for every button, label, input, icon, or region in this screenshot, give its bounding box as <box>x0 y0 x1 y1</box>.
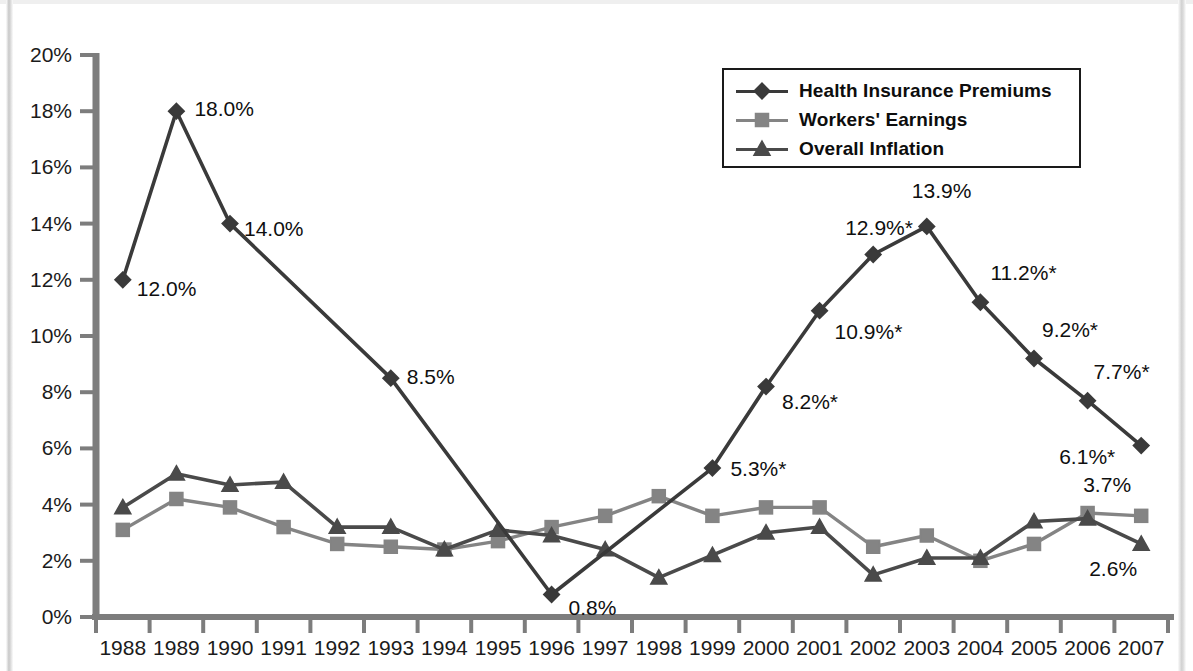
data-point-label: 3.7% <box>1083 473 1131 497</box>
legend-item-label: Health Insurance Premiums <box>799 80 1052 102</box>
legend-square-icon <box>734 109 790 131</box>
legend-marker-square <box>751 109 773 131</box>
y-tick-label: 4% <box>14 493 72 517</box>
legend-item[interactable]: Workers' Earnings <box>724 105 1079 134</box>
y-tick-label: 18% <box>14 99 72 123</box>
x-tick-label: 1994 <box>421 636 468 660</box>
x-tick-label: 2000 <box>743 636 790 660</box>
chart-page: 20%18%16%14%12%10%8%6%4%2%0% 19881989199… <box>0 0 1193 671</box>
x-tick-label: 1999 <box>689 636 736 660</box>
y-tick-label: 0% <box>14 605 72 629</box>
x-tick-label: 1988 <box>99 636 146 660</box>
x-tick-label: 1991 <box>260 636 307 660</box>
data-point-label: 12.0% <box>137 277 197 301</box>
data-point-label: 9.2%* <box>1042 318 1098 342</box>
data-point-label: 14.0% <box>244 217 304 241</box>
y-tick-label: 2% <box>14 549 72 573</box>
legend-item[interactable]: Health Insurance Premiums <box>724 76 1079 105</box>
y-tick-label: 16% <box>14 155 72 179</box>
data-point-label: 18.0% <box>194 97 254 121</box>
data-point-label: 5.3%* <box>730 457 786 481</box>
data-point-label: 13.9% <box>912 179 972 203</box>
x-tick-label: 1990 <box>207 636 254 660</box>
x-tick-label: 1996 <box>528 636 575 660</box>
x-tick-label: 1989 <box>153 636 200 660</box>
series-health-insurance-premiums <box>115 104 1148 602</box>
x-tick-label: 2006 <box>1064 636 1111 660</box>
x-tick-label: 1992 <box>314 636 361 660</box>
data-point-label: 0.8% <box>569 596 617 620</box>
series-overall-inflation <box>115 466 1149 584</box>
y-tick-label: 10% <box>14 324 72 348</box>
data-point-label: 11.2%* <box>990 261 1056 285</box>
y-tick-label: 20% <box>14 43 72 67</box>
y-tick-label: 6% <box>14 436 72 460</box>
x-tick-label: 2003 <box>903 636 950 660</box>
data-point-label: 8.2%* <box>782 390 838 414</box>
data-point-label: 8.5% <box>407 365 455 389</box>
legend-item-label: Overall Inflation <box>799 138 944 160</box>
series-workers-earnings <box>116 490 1147 568</box>
legend-marker-triangle <box>751 138 773 160</box>
data-point-label: 10.9%* <box>835 320 903 344</box>
legend-diamond-icon <box>734 80 790 102</box>
data-point-label: 2.6% <box>1089 557 1137 581</box>
series-layer <box>115 104 1149 602</box>
data-point-label: 12.9%* <box>845 216 913 240</box>
x-tick-label: 1998 <box>635 636 682 660</box>
x-tick-label: 2005 <box>1011 636 1058 660</box>
x-tick-label: 1997 <box>582 636 629 660</box>
x-tick-label: 2001 <box>796 636 843 660</box>
x-tick-label: 2002 <box>850 636 897 660</box>
chart-legend: Health Insurance PremiumsWorkers' Earnin… <box>722 68 1081 168</box>
x-tick-label: 1993 <box>367 636 414 660</box>
y-tick-label: 14% <box>14 212 72 236</box>
data-point-label: 7.7%* <box>1094 360 1150 384</box>
legend-marker-diamond <box>751 80 773 102</box>
y-tick-label: 12% <box>14 268 72 292</box>
legend-triangle-icon <box>734 138 790 160</box>
data-point-label: 6.1%* <box>1059 445 1115 469</box>
legend-item-label: Workers' Earnings <box>799 109 967 131</box>
y-tick-label: 8% <box>14 380 72 404</box>
legend-item[interactable]: Overall Inflation <box>724 134 1079 163</box>
x-tick-label: 2004 <box>957 636 1004 660</box>
x-tick-label: 2007 <box>1118 636 1165 660</box>
x-tick-label: 1995 <box>475 636 522 660</box>
